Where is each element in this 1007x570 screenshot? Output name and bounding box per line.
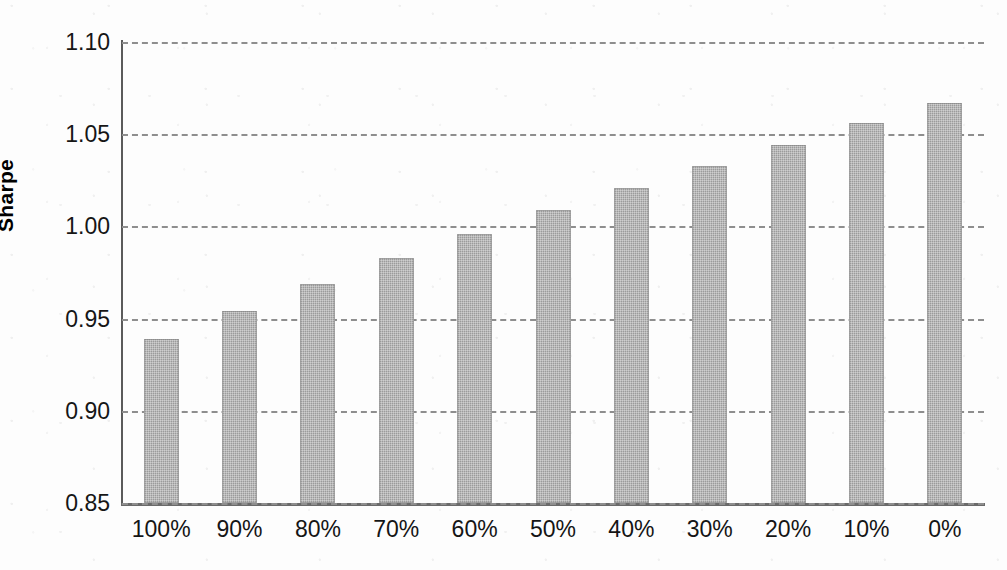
gridline	[122, 503, 984, 505]
x-tick-label: 20%	[765, 516, 811, 543]
gridline	[122, 42, 984, 44]
bar	[771, 145, 806, 503]
x-tick-label: 0%	[928, 516, 961, 543]
y-tick-label: 1.10	[0, 29, 110, 56]
bar	[849, 123, 884, 503]
y-tick-label: 0.95	[0, 306, 110, 333]
y-tick-label: 1.05	[0, 121, 110, 148]
y-tick-label: 1.00	[0, 213, 110, 240]
bar	[692, 166, 727, 503]
y-tick-label: 0.85	[0, 490, 110, 517]
y-tick-label: 0.90	[0, 398, 110, 425]
x-tick-label: 80%	[295, 516, 341, 543]
chart-figure: Sharpe 0.850.900.951.001.051.10 100%90%8…	[0, 0, 1007, 570]
bar	[379, 258, 414, 503]
x-tick-label: 100%	[132, 516, 191, 543]
x-tick-label: 30%	[687, 516, 733, 543]
x-tick-label: 60%	[452, 516, 498, 543]
bar	[927, 103, 962, 503]
x-tick-label: 10%	[843, 516, 889, 543]
x-tick-label: 40%	[608, 516, 654, 543]
bar	[614, 188, 649, 503]
bar	[457, 234, 492, 503]
bar	[536, 210, 571, 503]
bar	[300, 284, 335, 503]
x-tick-label: 70%	[373, 516, 419, 543]
bar	[222, 311, 257, 503]
bar	[144, 339, 179, 503]
x-tick-label: 50%	[530, 516, 576, 543]
plot-area	[122, 42, 984, 503]
x-tick-label: 90%	[217, 516, 263, 543]
